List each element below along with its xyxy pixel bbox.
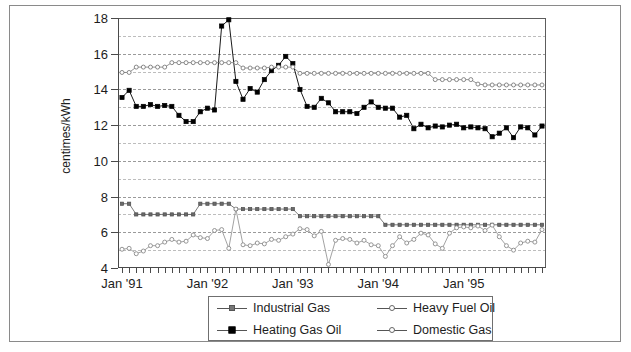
x-tick-41 [414,268,415,273]
data-point [341,110,345,114]
data-point [241,97,245,101]
data-point [198,236,202,240]
y-tick-18 [111,18,118,19]
data-point [255,90,259,94]
x-tick-label-3: Jan '94 [358,276,400,291]
data-point [134,252,138,256]
data-point [135,213,138,216]
y-tick-label-12: 12 [68,119,108,132]
y-tick-12 [111,125,118,126]
legend-label: Heavy Fuel Oil [413,301,495,315]
data-point [249,207,252,210]
x-tick-7 [172,268,173,273]
data-point [498,223,501,226]
data-point [298,215,301,218]
data-point [483,223,486,226]
series-layer [118,18,546,268]
data-point [184,239,188,243]
data-point [291,232,295,236]
data-point [269,237,273,241]
data-point [277,238,281,242]
legend-label: Industrial Gas [253,301,330,315]
y-tick-label-10: 10 [68,154,108,167]
data-point [148,65,152,69]
data-point [170,61,174,65]
data-point [184,61,188,65]
data-point [504,83,508,87]
data-point [141,249,145,253]
legend-item-heavy-fuel-oil[interactable]: Heavy Fuel Oil [369,301,494,315]
data-point [455,226,459,230]
data-point [241,243,245,247]
x-tick-9 [186,268,187,273]
data-point [362,238,366,242]
x-tick-26 [307,268,308,273]
data-point [291,65,295,69]
data-point [440,246,444,250]
data-point [234,207,238,211]
data-point [177,240,181,244]
data-point [127,70,131,74]
data-point [319,229,323,233]
data-point [512,83,516,87]
data-point [362,71,366,75]
data-point [298,227,302,231]
data-point [483,229,487,233]
x-tick-53 [499,268,500,273]
data-point [540,124,544,128]
x-tick-42 [421,268,422,273]
data-point [262,242,266,246]
data-point [490,135,494,139]
data-point [198,110,202,114]
legend-item-heating-gas-oil[interactable]: Heating Gas Oil [209,323,369,337]
data-point [497,83,501,87]
data-point [156,244,160,248]
data-point [191,61,195,65]
data-point [476,224,480,228]
series-heavy-fuel-oil [120,61,544,87]
data-point [412,237,416,241]
data-point [383,71,387,75]
data-point [128,202,131,205]
legend-item-domestic-gas[interactable]: Domestic Gas [369,323,494,337]
data-point [490,223,494,227]
x-tick-51 [485,268,486,273]
data-point [305,104,309,108]
legend-item-industrial-gas[interactable]: Industrial Gas [209,301,369,315]
data-point [355,111,359,115]
data-point [191,119,195,123]
data-point [398,235,402,239]
x-tick-8 [179,268,180,273]
data-point [398,115,402,119]
data-point [305,71,309,75]
data-point [148,103,152,107]
data-point [312,71,316,75]
data-point [369,243,373,247]
data-point [434,223,437,226]
y-tick-8 [111,197,118,198]
x-tick-4 [150,268,151,273]
data-point [270,207,273,210]
data-point [234,79,238,83]
data-point [447,78,451,82]
x-tick-43 [428,268,429,273]
x-tick-30 [336,268,337,273]
data-point [184,213,187,216]
data-point [262,78,266,82]
data-point [120,202,123,205]
y-tick-4 [111,268,118,269]
x-tick-57 [528,268,529,273]
x-tick-35 [371,268,372,273]
data-point [405,113,409,117]
data-point [205,237,209,241]
data-point [419,122,423,126]
data-point [462,78,466,82]
data-point [155,104,159,108]
x-tick-48 [464,268,465,273]
data-point [227,246,231,250]
x-tick-28 [321,268,322,273]
data-point [497,131,501,135]
data-point [341,215,344,218]
data-point [256,207,259,210]
data-point [440,78,444,82]
